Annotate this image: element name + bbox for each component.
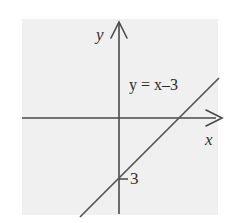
graph-figure: y x y = x–3 3 bbox=[0, 0, 230, 223]
y-intercept-tick-label: 3 bbox=[130, 170, 139, 187]
line-equation-label: y = x–3 bbox=[129, 77, 178, 93]
y-axis-label: y bbox=[96, 26, 104, 43]
line-y-equals-x-minus-3 bbox=[80, 78, 219, 217]
coordinate-graph bbox=[0, 0, 230, 223]
x-axis-label: x bbox=[205, 131, 213, 148]
